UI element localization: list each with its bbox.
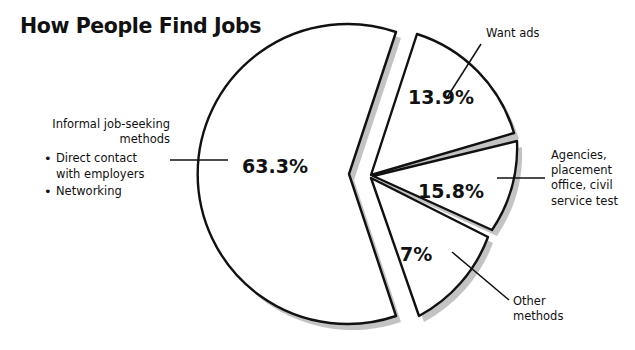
callout-informal-bullets: Direct contact with employers Networking [22, 151, 170, 199]
list-item-networking: Networking [44, 184, 170, 199]
callout-other-line2: methods [513, 309, 563, 324]
value-label-agencies: 15.8% [418, 180, 484, 202]
pie-chart-figure: How People Find Jobs 63.3% 13.9% 15.8% 7… [0, 0, 635, 350]
bullet-direct-contact-line1: Direct contact [56, 151, 137, 165]
callout-want-ads: Want ads [486, 26, 539, 41]
callout-agencies-line1: Agencies, [551, 148, 618, 163]
callout-agencies: Agencies, placement office, civil servic… [551, 148, 618, 209]
callout-informal-job-seeking: Informal job-seeking methods Direct cont… [22, 117, 170, 199]
bullet-direct-contact-line2: with employers [56, 167, 144, 181]
callout-informal-line1: Informal job-seeking [22, 117, 170, 132]
callout-other-line1: Other [513, 294, 563, 309]
value-label-want-ads: 13.9% [408, 86, 474, 108]
callout-informal-line2: methods [22, 132, 170, 147]
bullet-networking-line1: Networking [56, 184, 122, 198]
value-label-informal: 63.3% [242, 155, 308, 177]
list-item-direct-contact: Direct contact with employers [44, 151, 170, 181]
value-label-other-methods: 7% [400, 243, 432, 265]
callout-want-ads-label: Want ads [486, 26, 539, 41]
callout-agencies-line4: service test [551, 194, 618, 209]
callout-agencies-line3: office, civil [551, 178, 618, 193]
callout-agencies-line2: placement [551, 163, 618, 178]
callout-other-methods: Other methods [513, 294, 563, 324]
